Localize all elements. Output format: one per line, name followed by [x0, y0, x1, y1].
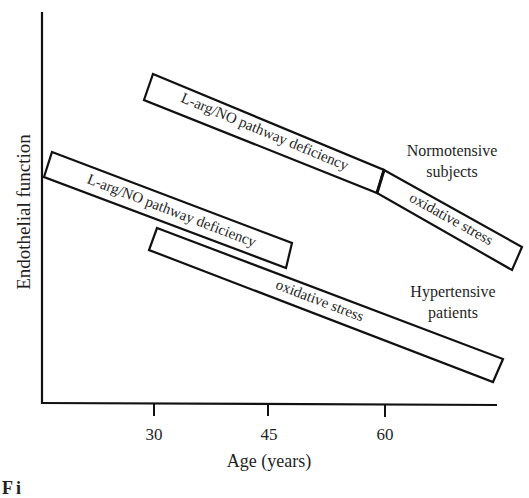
normotensive-label-line2: subjects: [426, 163, 478, 181]
x-axis-label: Age (years): [227, 451, 311, 472]
x-tick-label-45: 45: [261, 425, 278, 444]
normotensive-label-line1: Normotensive: [407, 142, 498, 159]
y-axis-label: Endothelial function: [13, 134, 34, 290]
hypertensive-label-line2: patients: [428, 304, 478, 322]
x-tick-label-60: 60: [377, 425, 394, 444]
normotensive-larg-no-label: L-arg/NO pathway deficiency: [179, 89, 351, 173]
x-tick-label-30: 30: [146, 425, 163, 444]
normotensive-larg-no-box: L-arg/NO pathway deficiency: [144, 74, 384, 193]
figure-caption-fragment: Fi: [2, 478, 24, 498]
hypertensive-label-line1: Hypertensive: [410, 283, 495, 301]
normotensive-oxidative-stress-box: oxidative stress: [377, 170, 522, 270]
